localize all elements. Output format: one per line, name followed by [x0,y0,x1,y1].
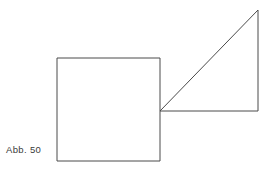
figure-caption: Abb. 50 [6,144,41,156]
figure-background [0,0,275,175]
figure-drawing-canvas [0,0,275,175]
figure-page: Abb. 50 [0,0,275,175]
